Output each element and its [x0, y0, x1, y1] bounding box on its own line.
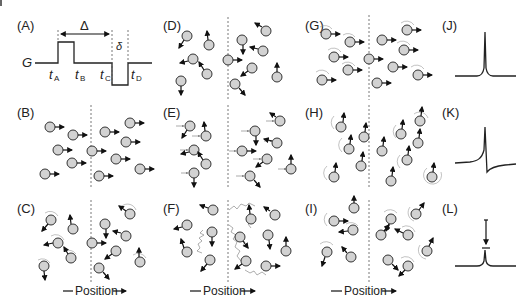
spin-group-f [174, 205, 291, 271]
panel-label-c: (C) [17, 201, 35, 216]
time-sub-a: A [54, 74, 60, 83]
spin-group-e [176, 113, 296, 187]
panel-label-l: (L) [442, 201, 458, 216]
spin-group-h [324, 107, 442, 186]
spin-group-c [38, 204, 146, 280]
position-axis-col3: Position [331, 284, 396, 298]
panel-j-echo-peak: (J) [442, 18, 516, 76]
position-axis-label-3: Position [344, 284, 387, 298]
panel-label-d: (D) [163, 18, 181, 33]
position-axis-col2: Position [190, 284, 255, 298]
spin-group-g [316, 21, 432, 88]
panel-label-f: (F) [163, 201, 180, 216]
position-axis-label-2: Position [203, 284, 246, 298]
time-sub-b: B [80, 74, 85, 83]
spectrum-k-trace [455, 127, 516, 172]
spectrum-j-trace [455, 32, 516, 76]
panel-h-spins-rotated: (H) [305, 105, 442, 188]
spin-group-d [176, 23, 282, 95]
gradient-label: G [22, 55, 32, 70]
panel-label-b: (B) [17, 105, 34, 120]
panel-b-spins-in-phase: (B) [17, 105, 154, 188]
time-sub-c: C [105, 74, 111, 83]
position-axis-label-1: Position [75, 284, 118, 298]
spin-group-b [40, 118, 154, 181]
panel-l-attenuated-echo: (L) [442, 201, 516, 266]
panel-label-i: (I) [305, 201, 317, 216]
panel-label-a: (A) [17, 18, 34, 33]
panel-e-spins-phase-memory: (E) [163, 105, 296, 188]
panel-d-spins-dephased: (D) [163, 17, 282, 100]
panel-c-spins-dephasing: (C) Position [17, 200, 146, 298]
panel-k-dispersive-signal: (K) [442, 105, 516, 172]
panel-g-spins-refocused: (G) [305, 15, 432, 100]
small-delta-label: δ [116, 40, 123, 52]
panel-label-k: (K) [442, 105, 459, 120]
panel-a-pulse-sequence: (A) G Δ δ t A t B t C t D [17, 18, 152, 85]
panel-label-j: (J) [442, 18, 457, 33]
position-axis-col1: Position [63, 284, 126, 298]
diffusion-diagram: (A) G Δ δ t A t B t C t D (B) [0, 0, 530, 308]
panel-f-spins-diffused: (F) Position [163, 200, 291, 298]
panel-label-g: (G) [305, 18, 324, 33]
panel-label-h: (H) [305, 105, 323, 120]
panel-label-e: (E) [163, 105, 180, 120]
panel-i-partial-refocus: (I) Position [305, 196, 433, 298]
big-delta-label: Δ [80, 18, 89, 33]
spectrum-l-trace [455, 250, 516, 266]
time-sub-d: D [136, 74, 142, 83]
spin-group-i [320, 196, 433, 276]
